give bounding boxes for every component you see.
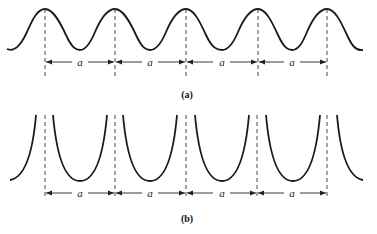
panel-a: a a a a (a)	[7, 9, 363, 101]
well-curve	[10, 115, 36, 180]
well-curve	[123, 115, 177, 181]
spacing-label: a	[289, 56, 295, 68]
spacing-label: a	[77, 187, 83, 199]
spacing-label: a	[219, 187, 225, 199]
well-curve	[195, 115, 249, 181]
spacing-label: a	[289, 187, 295, 199]
panel-label-a: (a)	[181, 89, 193, 101]
well-curve	[337, 115, 363, 180]
spacing-label: a	[219, 56, 225, 68]
panel-label-b: (b)	[181, 213, 193, 225]
spacing-label: a	[147, 187, 153, 199]
panel-b: a a a a (b)	[10, 115, 363, 225]
spacing-label: a	[147, 56, 153, 68]
well-curve	[53, 115, 107, 181]
spacing-label: a	[77, 56, 83, 68]
lattice-potential-diagram: a a a a (a) a a a a (b)	[0, 0, 377, 234]
sinusoidal-curve	[7, 9, 363, 50]
well-curve	[266, 115, 320, 181]
